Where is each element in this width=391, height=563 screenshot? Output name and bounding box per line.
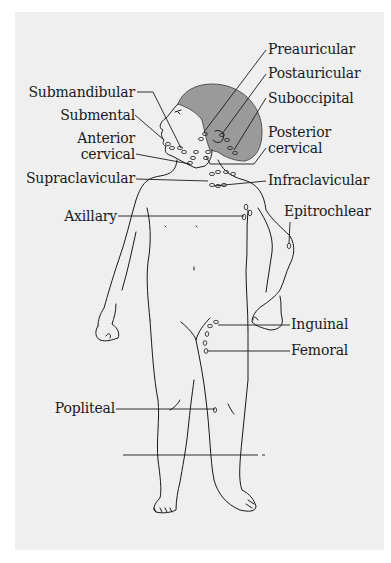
left-hand: [96, 304, 119, 341]
torso-right: [246, 210, 248, 330]
label-submental: Submental: [60, 108, 135, 123]
label-epitrochlear: Epitrochlear: [284, 204, 371, 219]
label-suboccipital: Suboccipital: [268, 91, 354, 106]
label-anterior-cervical-line2: cervical: [81, 147, 135, 162]
label-axillary: Axillary: [64, 209, 117, 224]
leader-anterior-cervical: [136, 154, 190, 164]
left-leg-outer: [150, 320, 194, 513]
right-leg-inner: [196, 330, 256, 511]
label-posterior-cervical-line2: cervical: [268, 141, 322, 156]
leader-submandibular: [137, 92, 181, 148]
label-postauricular: Postauricular: [268, 66, 360, 81]
label-preauricular: Preauricular: [268, 42, 355, 57]
hair-shape: [178, 84, 262, 161]
eye: [175, 110, 181, 114]
label-supraclavicular: Supraclavicular: [26, 171, 135, 186]
label-anterior-cervical-line1: Anterior: [77, 131, 135, 146]
label-infraclavicular: Infraclavicular: [268, 173, 369, 188]
label-posterior-cervical-line1: Posterior: [268, 125, 331, 140]
leader-epitrochlear: [289, 222, 290, 244]
label-popliteal: Popliteal: [55, 401, 115, 416]
leader-submental: [135, 115, 164, 140]
label-femoral: Femoral: [291, 343, 348, 358]
crotch: [181, 318, 210, 340]
label-submandibular: Submandibular: [28, 85, 135, 100]
label-inguinal: Inguinal: [291, 317, 348, 332]
torso-left: [147, 208, 150, 320]
